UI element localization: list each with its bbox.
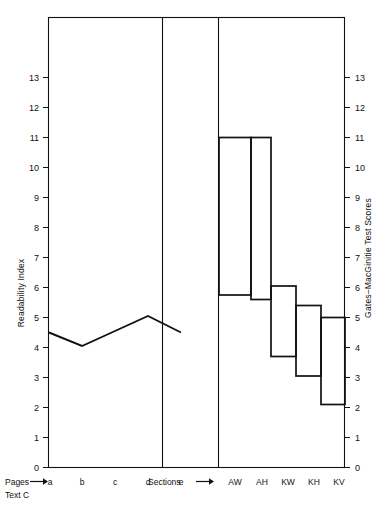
range-bar-AW xyxy=(219,138,251,296)
range-bar-AH xyxy=(251,138,271,300)
figure-root: 0 1 2 3 4 5 6 7 8 9 10 11 12 13 0 1 2 3 … xyxy=(0,0,390,513)
range-bar-KV xyxy=(321,318,345,405)
right-tick-11: 11 xyxy=(355,133,364,143)
right-tick-1: 1 xyxy=(355,433,360,443)
right-tick-3: 3 xyxy=(355,373,360,383)
left-tick-8: 8 xyxy=(34,223,39,233)
right-tick-6: 6 xyxy=(355,283,360,293)
left-tick-4: 4 xyxy=(34,343,39,353)
left-tick-9: 9 xyxy=(34,193,39,203)
chart-svg: 0 1 2 3 4 5 6 7 8 9 10 11 12 13 0 1 2 3 … xyxy=(0,0,390,513)
left-tick-3: 3 xyxy=(34,373,39,383)
left-axis-ticks xyxy=(43,78,49,468)
right-axis-title: Gates–MacGinitie Test Scores xyxy=(363,198,373,318)
right-tick-4: 4 xyxy=(355,343,360,353)
right-tick-5: 5 xyxy=(355,313,360,323)
left-tick-10: 10 xyxy=(29,163,39,173)
right-tick-8: 8 xyxy=(355,223,360,233)
range-bar-KH xyxy=(296,306,321,377)
right-cat-AW: AW xyxy=(228,477,241,487)
pages-arrow-icon xyxy=(30,478,48,484)
left-cat-b: b xyxy=(80,477,85,487)
left-tick-12: 12 xyxy=(29,103,39,113)
plot-frame xyxy=(49,18,345,468)
right-category-labels: AW AH KW KH KV xyxy=(228,477,345,487)
right-cat-KV: KV xyxy=(333,477,345,487)
left-axis-title: Readability Index xyxy=(16,258,26,327)
range-bar-KW xyxy=(271,286,296,357)
right-tick-10: 10 xyxy=(355,163,365,173)
right-tick-7: 7 xyxy=(355,253,360,263)
right-tick-9: 9 xyxy=(355,193,360,203)
left-tick-2: 2 xyxy=(34,403,39,413)
right-tick-13: 13 xyxy=(355,73,365,83)
left-tick-5: 5 xyxy=(34,313,39,323)
sections-axis-caption: Sections xyxy=(148,477,181,487)
readability-line-series xyxy=(49,316,181,346)
right-tick-0: 0 xyxy=(355,463,360,473)
left-cat-c: c xyxy=(113,477,118,487)
right-cat-KW: KW xyxy=(281,477,295,487)
left-tick-0: 0 xyxy=(34,463,39,473)
left-cat-a: a xyxy=(48,477,53,487)
left-tick-7: 7 xyxy=(34,253,39,263)
gates-macginitie-range-bars xyxy=(219,138,345,405)
left-tick-13: 13 xyxy=(29,73,39,83)
sections-arrow-icon xyxy=(196,478,214,484)
right-tick-12: 12 xyxy=(355,103,365,113)
text-c-footnote: Text C xyxy=(5,490,29,500)
right-cat-KH: KH xyxy=(308,477,320,487)
right-axis-ticks xyxy=(345,78,351,468)
left-tick-6: 6 xyxy=(34,283,39,293)
right-cat-AH: AH xyxy=(256,477,268,487)
left-tick-1: 1 xyxy=(34,433,39,443)
left-axis-tick-labels: 0 1 2 3 4 5 6 7 8 9 10 11 12 13 xyxy=(29,73,39,473)
pages-axis-caption: Pages xyxy=(5,477,29,487)
left-tick-11: 11 xyxy=(30,133,39,143)
right-tick-2: 2 xyxy=(355,403,360,413)
